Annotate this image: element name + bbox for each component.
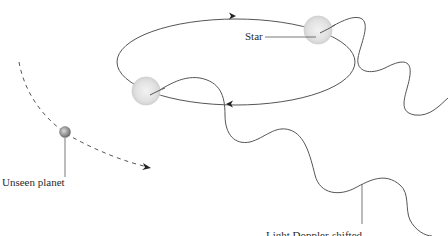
planet-label: Unseen planet (2, 176, 65, 188)
star-upper (301, 13, 335, 47)
orbit-arrow-left-icon (226, 101, 233, 108)
unseen-planet (60, 127, 71, 138)
planet-orbit (19, 62, 151, 170)
orbit-arrow-right-icon (229, 13, 236, 20)
star-label: Star (245, 30, 263, 42)
planet-orbit-arrow-icon (142, 163, 151, 170)
light-label: Light Doppler-shifted (266, 229, 363, 236)
light-wave-lower (150, 78, 432, 236)
light-wave-upper (320, 17, 448, 115)
diagram-canvas: Star Unseen planet Light Doppler-shifted (0, 0, 448, 236)
